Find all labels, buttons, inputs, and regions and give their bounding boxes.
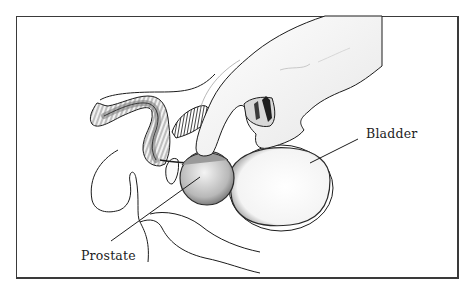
anatomy-illustration	[0, 0, 475, 290]
urethra-penis	[90, 96, 170, 166]
examining-hand	[196, 16, 382, 156]
prostate	[180, 151, 234, 205]
prostate-leader-line	[111, 177, 200, 241]
bladder-leader-line	[310, 139, 358, 163]
prostate-label: Prostate	[81, 248, 136, 263]
bladder	[231, 148, 331, 226]
bladder-label: Bladder	[366, 126, 417, 141]
